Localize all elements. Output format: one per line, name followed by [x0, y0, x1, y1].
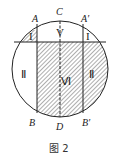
region-VI: Ⅵ — [61, 75, 71, 87]
label-C: C — [56, 6, 63, 17]
region-II-right: Ⅱ — [89, 68, 94, 80]
label-B-prime: B′ — [82, 117, 91, 128]
region-II-left: Ⅱ — [21, 68, 26, 80]
label-D: D — [55, 121, 64, 132]
figure-caption: 图 2 — [49, 143, 69, 154]
label-B: B — [29, 117, 35, 128]
hatched-region-VI-II — [37, 42, 114, 122]
circle-diagram: A C A′ B D B′ I I V Ⅱ Ⅱ Ⅵ 图 2 — [0, 0, 114, 166]
label-A: A — [31, 13, 39, 24]
label-A-prime: A′ — [80, 13, 90, 24]
region-I-right: I — [86, 30, 90, 42]
region-I-left: I — [29, 30, 33, 42]
region-V: V — [56, 26, 64, 38]
